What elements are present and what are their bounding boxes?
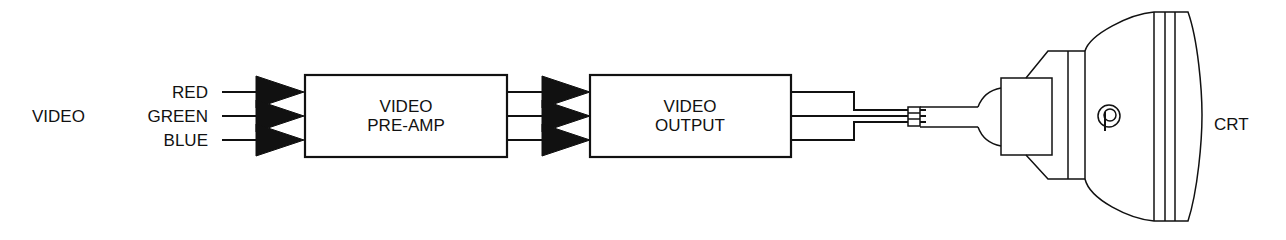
video-pre-amp-block: VIDEO PRE-AMP	[305, 75, 507, 157]
video-group-label: VIDEO	[32, 107, 85, 126]
input-label-blue: BLUE	[164, 131, 208, 150]
pre-amp-label-line2: PRE-AMP	[367, 116, 444, 135]
crt-label: CRT	[1214, 115, 1249, 134]
video-output-block: VIDEO OUTPUT	[590, 75, 791, 157]
output-cable-lines	[791, 92, 908, 140]
input-label-red: RED	[172, 83, 208, 102]
inter-block-lines	[507, 92, 544, 140]
crt-icon	[920, 12, 1202, 221]
input-arrow-icons	[256, 76, 304, 156]
output-arrow-icons	[542, 76, 590, 156]
video-signal-chain-diagram: VIDEO RED GREEN BLUE VIDEO PRE-AMP VIDEO…	[0, 0, 1286, 240]
manufacturer-logo-icon	[1098, 105, 1120, 131]
output-label-line2: OUTPUT	[655, 116, 725, 135]
input-lines	[222, 92, 258, 140]
input-label-green: GREEN	[148, 107, 208, 126]
output-label-line1: VIDEO	[664, 97, 717, 116]
cable-connector-icon	[908, 107, 926, 126]
pre-amp-label-line1: VIDEO	[380, 97, 433, 116]
